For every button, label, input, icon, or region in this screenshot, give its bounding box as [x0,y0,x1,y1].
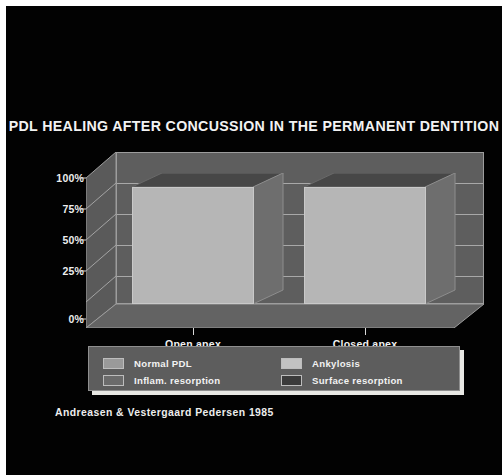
slide-canvas: PDL HEALING AFTER CONCUSSION IN THE PERM… [6,6,502,475]
y-tick-label-25: 25% [38,265,84,277]
x-tick-mark-closed-apex [365,328,366,335]
chart-plot-area: 100% 75% 50% 25% 0% [32,152,484,328]
bar-closed-apex-top-face [304,173,426,187]
legend-item-ankylosis[interactable]: Ankylosis [281,356,360,370]
y-tick-label-50: 50% [38,234,84,246]
legend-label-ankylosis: Ankylosis [312,358,360,369]
legend-label-inflam-resorption: Inflam. resorption [134,375,220,386]
bar-closed-apex [304,173,426,304]
legend-swatch-normal-pdl [103,358,124,369]
chart-floor [86,304,484,328]
y-tick-label-100: 100% [38,172,84,184]
bar-open-apex [132,173,254,304]
legend-item-normal-pdl[interactable]: Normal PDL [103,356,192,370]
bar-closed-apex-front-face [304,187,426,304]
legend-swatch-ankylosis [281,358,302,369]
chart-3d-scene [86,152,484,328]
legend-label-normal-pdl: Normal PDL [134,358,192,369]
legend-swatch-inflam-resorption [103,375,124,386]
legend-label-surface-resorption: Surface resorption [312,375,403,386]
source-attribution: Andreasen & Vestergaard Pedersen 1985 [55,407,274,418]
y-tick-label-0: 0% [38,313,84,325]
bar-open-apex-top-face [132,173,254,187]
chart-legend: Normal PDL Inflam. resorption Ankylosis … [88,346,460,391]
bar-closed-apex-side-face [425,173,456,304]
bar-open-apex-side-face [253,173,284,304]
legend-item-inflam-resorption[interactable]: Inflam. resorption [103,373,220,387]
x-tick-mark-open-apex [193,328,194,335]
legend-item-surface-resorption[interactable]: Surface resorption [281,373,403,387]
bar-open-apex-front-face [132,187,254,304]
y-axis: 100% 75% 50% 25% 0% [32,152,84,328]
slide-screenshot: PDL HEALING AFTER CONCUSSION IN THE PERM… [0,0,502,475]
y-tick-label-75: 75% [38,203,84,215]
legend-swatch-surface-resorption [281,375,302,386]
page-title: PDL HEALING AFTER CONCUSSION IN THE PERM… [6,118,502,134]
chart-side-wall [86,152,117,328]
